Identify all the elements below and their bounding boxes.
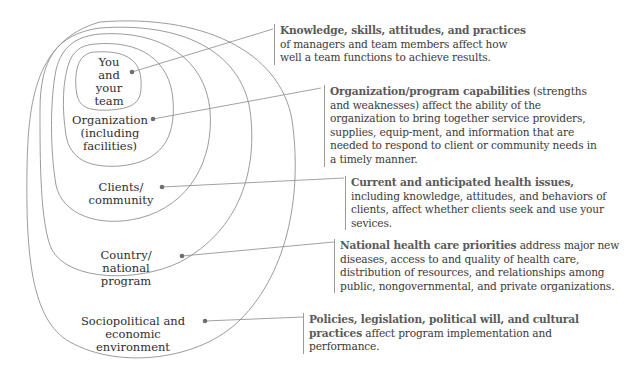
description-body: including knowledge, attitudes, and beha…: [351, 190, 606, 229]
description-lead: Current and anticipated health issues,: [351, 176, 574, 188]
description-lead: Organization/program capabilities: [330, 85, 530, 97]
connector-level-4: [182, 242, 334, 256]
level-4-label: Country/ national program: [76, 249, 176, 288]
connector-level-2: [153, 88, 321, 119]
level-4-description: National health care priorities address …: [334, 239, 620, 293]
level-1-description: Knowledge, skills, attitudes, and practi…: [274, 24, 530, 65]
level-3-label: Clients/ community: [88, 181, 154, 207]
dot-level-3: [160, 185, 165, 190]
level-5-description: Policies, legislation, political will, a…: [303, 313, 599, 354]
connector-level-3: [162, 178, 344, 187]
level-5-label: Sociopolitical and economic environment: [68, 315, 198, 354]
level-2-label: Organization (including facilities): [72, 114, 148, 153]
description-lead: National health care priorities: [340, 239, 516, 251]
dot-level-4: [180, 254, 185, 259]
dot-level-1: [130, 70, 135, 75]
connector-level-5: [205, 317, 303, 321]
description-lead: Knowledge, skills, attitudes, and practi…: [280, 24, 526, 36]
connector-level-1: [132, 29, 273, 72]
level-2-description: Organization/program capabilities (stren…: [324, 85, 605, 167]
level-5-outline: [27, 21, 295, 358]
dot-level-5: [203, 319, 208, 324]
level-1-label: You and your team: [92, 56, 126, 108]
dot-level-2: [151, 117, 156, 122]
description-body: of managers and team members affect how …: [280, 38, 507, 64]
level-3-description: Current and anticipated health issues, i…: [345, 176, 611, 230]
